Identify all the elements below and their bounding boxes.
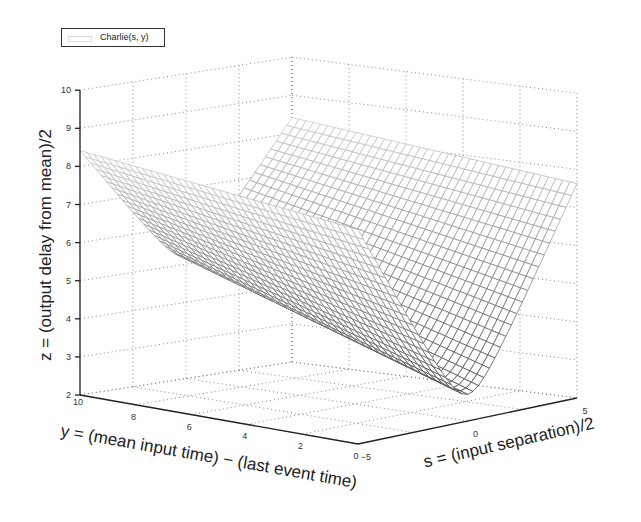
y-tick-label: 2: [298, 441, 303, 451]
legend-swatch: [68, 36, 92, 42]
z-tick-label: 5: [66, 276, 71, 286]
z-axis-label: z = (output delay from mean)/2: [36, 129, 55, 361]
legend-label: Charlie(s, y): [100, 32, 149, 42]
z-tick-label: 8: [66, 161, 71, 171]
y-tick-label: 6: [187, 422, 192, 432]
z-tick-label: 10: [61, 85, 71, 95]
y-tick-label: 0: [353, 451, 358, 461]
z-tick-label: 4: [66, 314, 71, 324]
z-tick-label: 7: [66, 200, 71, 210]
y-tick-label: 10: [73, 397, 83, 407]
y-axis-label: y = (mean input time) − (last event time…: [59, 421, 358, 492]
surface-mesh: [80, 118, 577, 395]
legend-box: Charlie(s, y): [61, 28, 165, 47]
y-tick-label: 8: [131, 412, 136, 422]
z-tick-label: 3: [66, 352, 71, 362]
s-tick-label: −5: [361, 452, 371, 462]
z-tick-label: 6: [66, 238, 71, 248]
z-tick-label: 9: [66, 123, 71, 133]
s-tick-label: 0: [473, 429, 478, 439]
surface-plot: 23456789101086420−505z = (output delay f…: [0, 0, 641, 522]
z-tick-label: 2: [66, 390, 71, 400]
y-tick-label: 4: [242, 431, 247, 441]
s-axis-label: s = (input separation)/2: [422, 414, 596, 472]
